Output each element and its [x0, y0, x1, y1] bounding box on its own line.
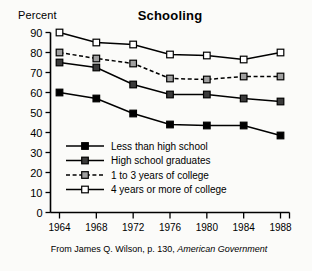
x-tick-label: 1976: [159, 222, 182, 233]
y-tick-label: 80: [30, 47, 42, 59]
caption-prefix: From James Q. Wilson, p. 130,: [51, 244, 178, 254]
series-layer: [56, 29, 284, 139]
y-tick-label: 90: [30, 27, 42, 39]
caption-title: American Government: [177, 244, 267, 254]
data-point-marker: [277, 49, 284, 56]
data-point-marker: [277, 132, 284, 139]
data-point-marker: [240, 95, 247, 102]
legend-item-1: High school graduates: [66, 155, 211, 166]
data-point-marker: [204, 122, 211, 129]
data-point-marker: [130, 110, 137, 117]
x-tick-label: 1968: [85, 222, 108, 233]
data-point-marker: [240, 56, 247, 63]
y-tick-label: 60: [30, 87, 42, 99]
data-point-marker: [204, 76, 211, 83]
y-tick-label: 70: [30, 67, 42, 79]
y-tick-label: 30: [30, 147, 42, 159]
y-tick-label: 0: [36, 207, 42, 219]
legend-marker: [82, 143, 89, 150]
y-tick-label: 20: [30, 167, 42, 179]
legend-marker: [82, 157, 89, 164]
x-tick-label: 1964: [48, 222, 71, 233]
legend-item-0: Less than high school: [66, 141, 208, 152]
y-axis: 0102030405060708090: [30, 27, 50, 219]
data-point-marker: [167, 51, 174, 58]
data-point-marker: [130, 41, 137, 48]
data-point-marker: [277, 98, 284, 105]
data-point-marker: [240, 73, 247, 80]
y-tick-label: 40: [30, 127, 42, 139]
line-chart-plot: 0102030405060708090 19641968197219761980…: [0, 0, 312, 240]
data-point-marker: [93, 55, 100, 62]
x-tick-label: 1980: [196, 222, 219, 233]
x-tick-label: 1984: [233, 222, 256, 233]
data-point-marker: [167, 121, 174, 128]
data-point-marker: [56, 59, 63, 66]
x-tick-label: 1988: [269, 222, 292, 233]
y-tick-label: 50: [30, 107, 42, 119]
legend-label: High school graduates: [111, 155, 211, 166]
data-point-marker: [167, 91, 174, 98]
chart-legend: Less than high schoolHigh school graduat…: [66, 141, 227, 196]
legend-label: 4 years or more of college: [111, 184, 227, 195]
x-axis: 1964196819721976198019841988: [48, 213, 292, 233]
data-point-marker: [167, 75, 174, 82]
data-point-marker: [130, 60, 137, 67]
data-point-marker: [93, 64, 100, 71]
legend-marker: [82, 172, 89, 179]
data-point-marker: [204, 91, 211, 98]
source-caption: From James Q. Wilson, p. 130, American G…: [0, 244, 312, 254]
data-point-marker: [240, 122, 247, 129]
data-point-marker: [56, 89, 63, 96]
data-point-marker: [56, 49, 63, 56]
data-point-marker: [130, 81, 137, 88]
legend-marker: [82, 186, 89, 193]
data-point-marker: [93, 39, 100, 46]
legend-label: Less than high school: [111, 141, 208, 152]
data-point-marker: [56, 29, 63, 36]
data-point-marker: [277, 73, 284, 80]
series-3: [56, 29, 284, 63]
x-tick-label: 1972: [122, 222, 145, 233]
data-point-marker: [204, 52, 211, 59]
data-point-marker: [93, 95, 100, 102]
legend-item-3: 4 years or more of college: [66, 184, 227, 195]
chart-figure: Percent Schooling 0102030405060708090 19…: [0, 0, 312, 271]
legend-item-2: 1 to 3 years of college: [66, 170, 209, 181]
legend-label: 1 to 3 years of college: [111, 170, 209, 181]
y-tick-label: 10: [30, 187, 42, 199]
